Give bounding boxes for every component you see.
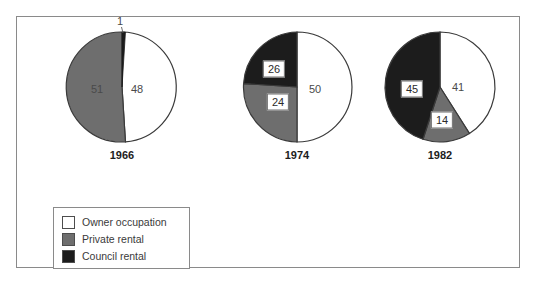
legend-swatch-council-rental [62, 250, 75, 263]
pie-chart-1974: 26 24 50 1974 [222, 27, 372, 147]
chart-legend: Owner occupation Private rental Council … [53, 207, 190, 269]
year-label-1966: 1966 [47, 149, 197, 161]
slice-value-owner-occupation: 41 [452, 82, 464, 93]
pie-slice-owner-occupation [297, 32, 352, 142]
legend-label-owner-occupation: Owner occupation [82, 216, 167, 228]
pie-slice-private-rental [243, 84, 297, 142]
slice-value-private-rental: 51 [91, 84, 103, 95]
legend-item-owner-occupation: Owner occupation [62, 214, 181, 230]
pie-slice-council-rental [244, 32, 297, 87]
pie-chart-1966: 51 48 1 1966 [47, 27, 197, 147]
pie-canvas-1966: 51 48 1 [47, 27, 197, 147]
year-label-1982: 1982 [365, 149, 515, 161]
slice-value-owner-occupation: 50 [309, 84, 321, 95]
legend-item-private-rental: Private rental [62, 231, 181, 247]
legend-swatch-private-rental [62, 233, 75, 246]
slice-value-council-rental: 45 [401, 81, 423, 98]
legend-label-council-rental: Council rental [82, 250, 146, 262]
legend-item-council-rental: Council rental [62, 248, 181, 264]
slice-value-owner-occupation: 48 [131, 84, 143, 95]
pie-svg-1966 [47, 27, 197, 147]
legend-swatch-owner-occupation [62, 216, 75, 229]
year-label-1974: 1974 [222, 149, 372, 161]
slice-value-council-rental: 1 [117, 16, 123, 27]
slice-value-private-rental: 24 [267, 94, 289, 111]
chart-frame: 51 48 1 1966 26 24 50 1974 [16, 16, 520, 268]
pie-svg-1974 [222, 27, 372, 147]
slice-value-private-rental: 14 [431, 112, 453, 129]
pie-chart-1982: 45 41 14 1982 [365, 27, 515, 147]
slice-value-council-rental: 26 [263, 61, 285, 78]
pie-svg-1982 [365, 27, 515, 147]
pie-canvas-1974: 26 24 50 [222, 27, 372, 147]
pie-canvas-1982: 45 41 14 [365, 27, 515, 147]
legend-label-private-rental: Private rental [82, 233, 144, 245]
